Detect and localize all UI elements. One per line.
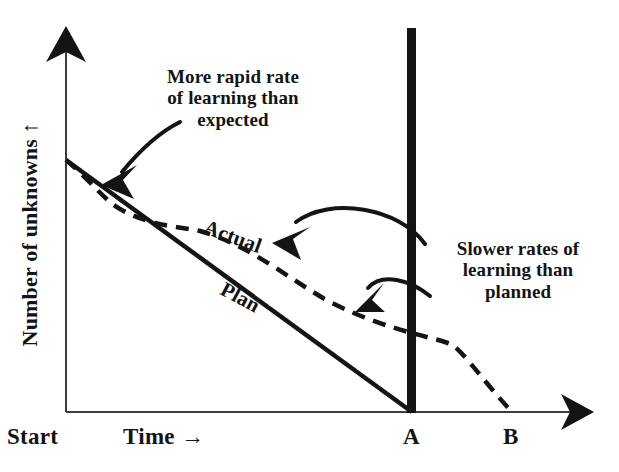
- x-axis-tick-label-b: B: [503, 424, 518, 450]
- x-axis-origin-label: Start: [7, 424, 58, 450]
- x-axis-tick-label-a: A: [403, 424, 420, 450]
- annotation-top-arrowhead-icon: [101, 165, 137, 199]
- x-axis-label: Time →: [123, 424, 204, 450]
- annotation-right-arrow1-arrowhead-icon: [272, 227, 310, 260]
- y-axis-label: Number of unknowns ↑: [18, 64, 43, 404]
- annotation-right-arrow2-shaft: [368, 279, 430, 296]
- annotation-more-rapid-rate: More rapid rate of learning than expecte…: [128, 66, 338, 130]
- learning-curve-figure: Number of unknowns ↑ Time → Start A B Mo…: [0, 0, 619, 472]
- annotation-right-arrow1-shaft: [296, 208, 425, 244]
- annotation-slower-rates: Slower rates of learning than planned: [430, 238, 606, 302]
- milestone-a-bar: [407, 28, 416, 413]
